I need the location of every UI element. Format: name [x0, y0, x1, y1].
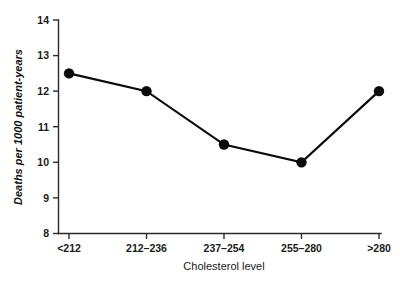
data-point-marker — [64, 68, 74, 78]
chart-figure: 14 13 12 11 10 9 8 <212 212–236 237–254 … — [0, 0, 400, 282]
data-point-marker — [141, 86, 151, 96]
data-point-marker — [296, 157, 306, 167]
y-tick-label: 13 — [37, 49, 49, 61]
y-tick-label: 14 — [37, 14, 49, 26]
data-point-marker — [219, 139, 229, 149]
x-tick-label: >280 — [367, 242, 391, 254]
x-tick-label: <212 — [57, 242, 81, 254]
data-point-marker — [374, 86, 384, 96]
y-tick-label: 10 — [37, 156, 49, 168]
x-tick-label: 255–280 — [281, 242, 322, 254]
y-tick-label: 12 — [37, 85, 49, 97]
y-tick-label: 8 — [43, 227, 49, 239]
y-tick-label: 11 — [38, 121, 49, 133]
y-tick-label: 9 — [43, 192, 49, 204]
y-axis-label: Deaths per 1000 patient-years — [12, 49, 24, 205]
x-tick-label: 237–254 — [204, 242, 245, 254]
line-chart: 14 13 12 11 10 9 8 <212 212–236 237–254 … — [0, 0, 400, 282]
x-axis-label: Cholesterol level — [183, 260, 264, 272]
x-tick-label: 212–236 — [126, 242, 167, 254]
chart-background — [0, 0, 400, 282]
